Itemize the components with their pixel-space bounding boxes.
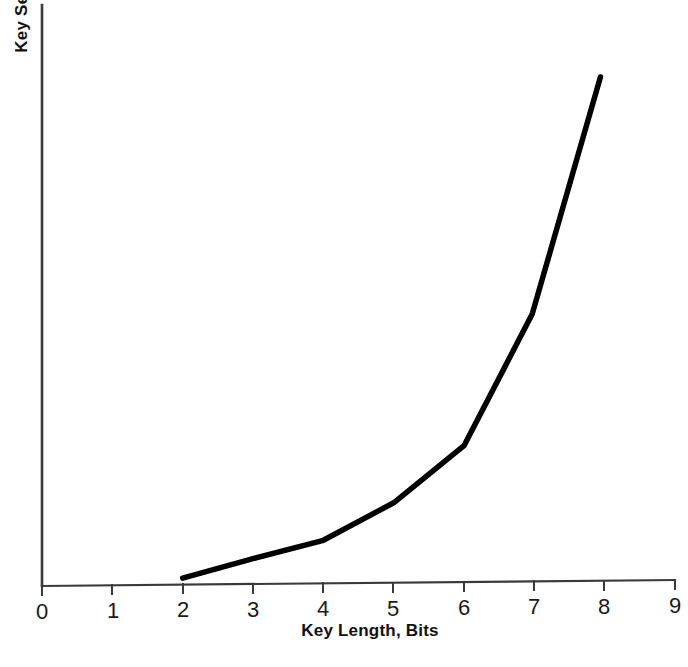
x-axis-line (42, 580, 675, 586)
x-tick-label-9: 9 (655, 593, 688, 619)
x-tick-label-2: 2 (163, 597, 203, 623)
x-tick-label-8: 8 (584, 594, 624, 620)
x-tick-label-5: 5 (373, 596, 413, 622)
chart-plot-area (0, 0, 688, 667)
x-tick-label-4: 4 (303, 596, 343, 622)
x-tick-label-6: 6 (444, 595, 484, 621)
x-tick-label-3: 3 (233, 597, 273, 623)
y-axis-title: Key Security (12, 0, 32, 53)
data-series-key-security (183, 77, 601, 578)
chart-figure: 0 1 2 3 4 5 6 7 8 9 Key Length, Bits Key… (0, 0, 688, 667)
x-axis-title: Key Length, Bits (0, 621, 688, 641)
x-tick-label-7: 7 (514, 594, 554, 620)
